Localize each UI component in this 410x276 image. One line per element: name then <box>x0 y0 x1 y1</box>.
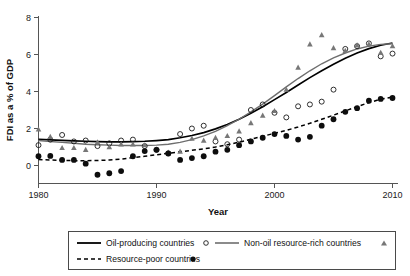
x-tick-label-2010: 2010 <box>382 190 402 200</box>
chart-figure: 8 6 4 2 0 1980 1990 2000 2010 Year FDI a… <box>0 0 410 276</box>
data-point <box>142 148 148 154</box>
data-point <box>283 133 289 139</box>
data-point <box>47 153 53 159</box>
data-point <box>272 131 278 137</box>
y-tick-label-8: 8 <box>26 13 31 23</box>
data-point <box>83 161 89 167</box>
y-tick-label-2: 2 <box>26 124 31 134</box>
x-axis-title: Year <box>208 206 228 217</box>
y-tick-label-0: 0 <box>26 161 31 171</box>
legend-label-oil-producing: Oil-producing countries <box>106 238 194 248</box>
y-axis-title: FDI as a % of GDP <box>4 58 15 141</box>
x-tick-label-2000: 2000 <box>264 190 284 200</box>
data-point <box>106 170 112 176</box>
y-tick-label-4: 4 <box>26 87 31 97</box>
x-tick-label-1990: 1990 <box>146 190 166 200</box>
data-point <box>71 157 77 163</box>
data-point <box>236 142 242 148</box>
data-point <box>366 98 372 104</box>
data-point <box>189 155 195 161</box>
data-point <box>59 157 65 163</box>
legend-marker-filled-circle-icon <box>190 256 195 261</box>
data-point <box>307 134 313 140</box>
data-point <box>201 153 207 159</box>
data-point <box>177 157 183 163</box>
data-point <box>224 147 230 153</box>
legend-label-resource-poor: Resource-poor countries <box>106 254 200 264</box>
data-point <box>213 149 219 155</box>
data-point <box>118 168 124 174</box>
data-point <box>248 139 254 145</box>
fdi-scatter-chart: 8 6 4 2 0 1980 1990 2000 2010 Year FDI a… <box>0 0 410 276</box>
data-point <box>331 116 337 122</box>
data-point <box>390 95 396 101</box>
x-tick-label-1980: 1980 <box>28 190 48 200</box>
data-point <box>260 135 266 141</box>
y-tick-label-6: 6 <box>26 50 31 60</box>
data-point <box>378 96 384 102</box>
legend-label-non-oil-resource-rich: Non-oil resource-rich countries <box>244 238 361 248</box>
data-point <box>130 153 136 159</box>
data-point <box>154 147 160 153</box>
data-point <box>295 137 301 143</box>
data-point <box>36 153 42 159</box>
data-point <box>354 105 360 111</box>
data-point <box>342 109 348 115</box>
data-point <box>95 172 101 178</box>
chart-legend: Oil-producing countries Non-oil resource… <box>69 232 396 270</box>
data-point <box>319 123 325 129</box>
data-point <box>165 151 171 157</box>
